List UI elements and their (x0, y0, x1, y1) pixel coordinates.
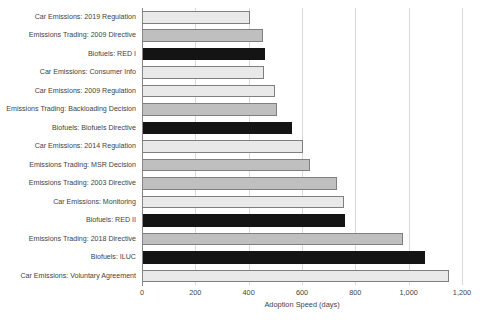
chart-row (142, 248, 462, 266)
category-label: Emissions Trading: 2003 Directive (0, 174, 136, 192)
chart-row (142, 63, 462, 81)
chart-row (142, 8, 462, 26)
bar[interactable] (142, 48, 265, 61)
category-label: Biofuels: ILUC (0, 248, 136, 266)
category-label: Car Emissions: 2019 Regulation (0, 8, 136, 26)
chart-row (142, 211, 462, 229)
bar[interactable] (142, 196, 344, 209)
x-tick-label: 600 (282, 288, 322, 297)
chart-row (142, 230, 462, 248)
bar-chart: Adoption Speed (days) 02004006008001,000… (0, 0, 480, 320)
plot-area (142, 8, 462, 285)
category-label: Biofuels: RED I (0, 45, 136, 63)
bar[interactable] (142, 66, 264, 79)
x-tick-label: 400 (229, 288, 269, 297)
bar[interactable] (142, 11, 250, 24)
bar[interactable] (142, 251, 425, 264)
bar[interactable] (142, 233, 403, 246)
chart-row (142, 119, 462, 137)
category-label: Emissions Trading: Backloading Decision (0, 100, 136, 118)
chart-row (142, 137, 462, 155)
bar[interactable] (142, 29, 263, 42)
category-label: Car Emissions: 2014 Regulation (0, 137, 136, 155)
chart-row (142, 45, 462, 63)
chart-row (142, 267, 462, 285)
category-label: Emissions Trading: 2018 Directive (0, 230, 136, 248)
bar[interactable] (142, 85, 275, 98)
x-tick-label: 200 (175, 288, 215, 297)
y-axis-line (142, 8, 143, 286)
x-tick-label: 0 (122, 288, 162, 297)
category-label: Car Emissions: Voluntary Agreement (0, 267, 136, 285)
x-tick-label: 800 (335, 288, 375, 297)
chart-row (142, 193, 462, 211)
bar[interactable] (142, 214, 345, 227)
category-label: Emissions Trading: 2009 Directive (0, 26, 136, 44)
bar[interactable] (142, 140, 303, 153)
category-label: Biofuels: RED II (0, 211, 136, 229)
category-label: Biofuels: Biofuels Directive (0, 119, 136, 137)
category-label: Car Emissions: Consumer Info (0, 63, 136, 81)
x-axis-title: Adoption Speed (days) (142, 300, 462, 309)
gridline (462, 8, 463, 285)
chart-row (142, 100, 462, 118)
bar[interactable] (142, 177, 337, 190)
bar[interactable] (142, 159, 310, 172)
bar[interactable] (142, 122, 292, 135)
category-label: Car Emissions: Monitoring (0, 193, 136, 211)
category-label: Car Emissions: 2009 Regulation (0, 82, 136, 100)
bar[interactable] (142, 270, 449, 283)
x-tick-label: 1,000 (389, 288, 429, 297)
chart-row (142, 82, 462, 100)
chart-row (142, 174, 462, 192)
x-tick-label: 1,200 (442, 288, 480, 297)
chart-row (142, 156, 462, 174)
category-label: Emissions Trading: MSR Decision (0, 156, 136, 174)
chart-row (142, 26, 462, 44)
bar[interactable] (142, 103, 277, 116)
